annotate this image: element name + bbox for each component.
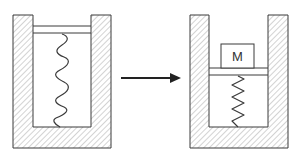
right-spring-icon bbox=[232, 76, 244, 127]
mass-label: M bbox=[232, 49, 243, 64]
right-plate bbox=[209, 68, 268, 75]
spring-mass-diagram: M bbox=[0, 0, 301, 161]
arrow-right-icon bbox=[121, 73, 181, 83]
mass-block: M bbox=[221, 44, 254, 68]
left-spring-icon bbox=[54, 34, 68, 127]
left-plate bbox=[33, 26, 91, 33]
